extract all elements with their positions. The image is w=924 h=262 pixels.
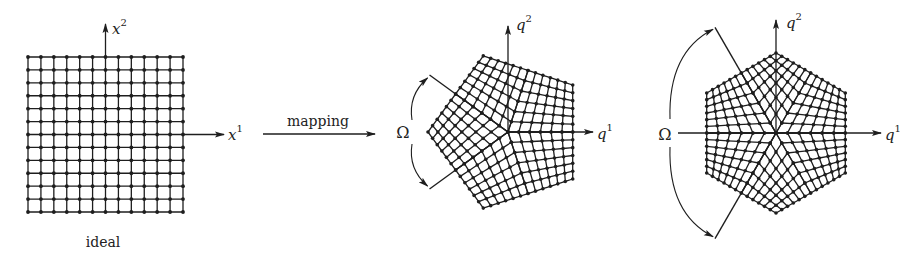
- x1-axis-label: x1: [228, 123, 243, 144]
- ideal-caption: ideal: [86, 234, 121, 250]
- ideal-square-grid: [26, 55, 185, 214]
- mapping-label: mapping: [287, 113, 349, 129]
- pentagon-q1-label: q1: [597, 122, 613, 143]
- coordinate-mapping-diagram: x1 x2 ideal mapping q1 q2 Ω q1 q2 Ω: [0, 0, 924, 262]
- hexagon-q1-label: q1: [885, 123, 901, 144]
- pentagon-q2-label: q2: [516, 13, 532, 34]
- hexagon-q2-label: q2: [786, 11, 802, 32]
- ideal-axes: [106, 24, 225, 135]
- hexagon-omega-label: Ω: [658, 125, 671, 144]
- x2-axis-label: x2: [112, 17, 127, 38]
- pentagon-omega-label: Ω: [396, 123, 409, 142]
